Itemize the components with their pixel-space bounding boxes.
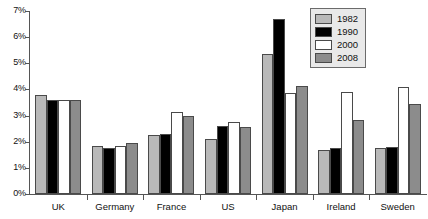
y-axis-tick-mark — [25, 89, 29, 90]
y-axis-tick-mark — [25, 37, 29, 38]
x-axis-category-label: US — [200, 202, 257, 212]
bar — [398, 87, 410, 194]
y-axis-tick-label: 0% — [0, 189, 26, 198]
bar — [285, 93, 297, 194]
bar — [217, 126, 229, 194]
y-axis-tick-mark — [25, 63, 29, 64]
bar — [240, 127, 252, 194]
x-axis-category-label: Ireland — [313, 202, 370, 212]
y-axis-tick-label: 7% — [0, 6, 26, 15]
y-axis-tick-mark — [25, 194, 29, 195]
bar — [353, 120, 365, 195]
x-axis-category-label: Japan — [256, 202, 313, 212]
legend-item[interactable]: 1990 — [315, 25, 361, 38]
y-axis-tick-label: 4% — [0, 84, 26, 93]
x-axis-line — [29, 194, 427, 195]
bar — [318, 150, 330, 194]
x-axis-tick-mark — [200, 195, 201, 200]
bar — [296, 86, 308, 194]
legend-item[interactable]: 1982 — [315, 12, 361, 25]
bar — [58, 100, 70, 194]
legend-swatch-icon — [315, 27, 332, 37]
legend-item-label: 1990 — [337, 27, 358, 37]
bar — [103, 148, 115, 194]
bar — [171, 112, 183, 194]
bar — [262, 54, 274, 194]
legend: 1982199020002008 — [310, 8, 366, 68]
bar — [70, 100, 82, 194]
bar — [228, 122, 240, 194]
bar — [160, 134, 172, 194]
legend-item-label: 2000 — [337, 40, 358, 50]
y-axis-tick-label: 1% — [0, 163, 26, 172]
bar — [35, 95, 47, 194]
x-axis-tick-mark — [256, 195, 257, 200]
bar — [92, 146, 104, 194]
legend-item-label: 1982 — [337, 14, 358, 24]
y-axis: 0%1%2%3%4%5%6%7% — [0, 0, 26, 219]
bar — [148, 135, 160, 194]
legend-item-label: 2008 — [337, 53, 358, 63]
x-axis-tick-mark — [313, 195, 314, 200]
bar — [341, 92, 353, 194]
y-axis-tick-label: 3% — [0, 111, 26, 120]
bar — [47, 100, 59, 194]
x-axis-tick-mark — [369, 195, 370, 200]
y-axis-tick-mark — [25, 142, 29, 143]
legend-swatch-icon — [315, 53, 332, 63]
y-axis-tick-label: 2% — [0, 137, 26, 146]
y-axis-tick-mark — [25, 116, 29, 117]
y-axis-tick-mark — [25, 11, 29, 12]
bar — [409, 104, 421, 194]
y-axis-tick-mark — [25, 168, 29, 169]
x-axis-category-label: UK — [30, 202, 87, 212]
bar — [386, 147, 398, 194]
legend-item[interactable]: 2000 — [315, 38, 361, 51]
x-axis-category-label: Germany — [87, 202, 144, 212]
bar — [205, 139, 217, 194]
x-axis-tick-mark — [87, 195, 88, 200]
bar — [183, 116, 195, 194]
x-axis-category-label: France — [143, 202, 200, 212]
x-axis-tick-mark — [143, 195, 144, 200]
bar — [126, 143, 138, 194]
bar — [273, 19, 285, 194]
bar-chart: 0%1%2%3%4%5%6%7% 1982199020002008 UKGerm… — [0, 0, 428, 219]
legend-swatch-icon — [315, 40, 332, 50]
legend-swatch-icon — [315, 14, 332, 24]
x-axis-category-label: Sweden — [369, 202, 426, 212]
bar — [330, 148, 342, 194]
bar — [115, 146, 127, 194]
bar — [375, 148, 387, 194]
y-axis-tick-label: 6% — [0, 32, 26, 41]
y-axis-tick-label: 5% — [0, 58, 26, 67]
legend-item[interactable]: 2008 — [315, 51, 361, 64]
